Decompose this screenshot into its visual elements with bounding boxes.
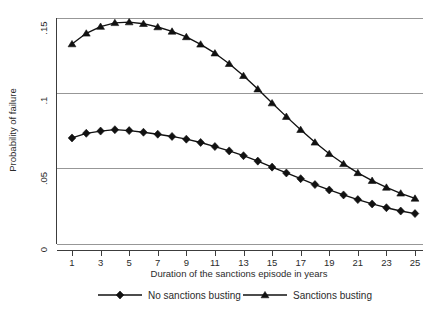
- series-line: [72, 22, 415, 198]
- x-tick-label: 25: [410, 257, 421, 268]
- x-tick-label: 11: [210, 257, 220, 268]
- y-tick-label: .05: [38, 172, 49, 185]
- x-tick-label: 9: [184, 257, 189, 268]
- series-1: [68, 126, 419, 218]
- x-tick-label: 21: [353, 257, 364, 268]
- data-point-marker: [82, 30, 90, 36]
- x-tick-label: 1: [69, 257, 74, 268]
- data-point-marker: [211, 143, 219, 151]
- data-point-marker: [311, 181, 319, 189]
- series-line: [72, 130, 415, 214]
- data-point-marker: [197, 41, 205, 47]
- data-point-marker: [368, 200, 376, 208]
- data-point-marker: [368, 177, 376, 183]
- data-point-marker: [254, 157, 262, 165]
- data-point-marker: [411, 210, 419, 218]
- data-point-marker: [154, 130, 162, 138]
- data-point-marker: [283, 169, 291, 177]
- data-point-marker: [82, 129, 90, 137]
- legend-label: Sanctions busting: [293, 290, 372, 301]
- legend-item-2[interactable]: Sanctions busting: [243, 290, 372, 301]
- data-point-marker: [168, 132, 176, 140]
- data-point-marker: [240, 152, 248, 160]
- data-point-marker: [354, 169, 362, 175]
- x-tick-label: 13: [238, 257, 249, 268]
- x-tick-group: [73, 251, 416, 256]
- data-point-marker: [354, 196, 362, 204]
- x-tick-label: 17: [295, 257, 306, 268]
- data-point-marker: [297, 175, 305, 183]
- series-2: [68, 18, 419, 201]
- y-axis-title: Probability of failure: [7, 88, 18, 171]
- data-point-marker: [211, 50, 219, 56]
- y-tick-label: .1: [38, 97, 49, 105]
- x-tick-label: 19: [324, 257, 335, 268]
- chart-canvas: 0.05.1.15 135791113151719212325 Duration…: [0, 0, 430, 316]
- gridlines-group: [57, 19, 423, 245]
- data-point-marker: [383, 204, 391, 212]
- data-point-marker: [97, 127, 105, 135]
- data-point-marker: [325, 186, 333, 194]
- data-point-marker: [197, 138, 205, 146]
- chart-figure: 0.05.1.15 135791113151719212325 Duration…: [0, 0, 430, 316]
- data-point-marker: [183, 135, 191, 143]
- x-axis-title: Duration of the sanctions episode in yea…: [151, 268, 328, 279]
- data-point-marker: [68, 134, 76, 142]
- data-point-marker: [225, 147, 233, 155]
- chart-legend: No sanctions bustingSanctions busting: [98, 290, 372, 301]
- x-tick-label: 15: [267, 257, 278, 268]
- legend-label: No sanctions busting: [148, 290, 241, 301]
- data-point-marker: [111, 126, 119, 134]
- x-tick-label: 5: [127, 257, 132, 268]
- y-tick-label: .15: [38, 22, 49, 35]
- series-group: [68, 18, 419, 217]
- data-point-marker: [340, 191, 348, 199]
- data-point-marker: [397, 207, 405, 215]
- data-point-marker: [268, 163, 276, 171]
- legend-item-1[interactable]: No sanctions busting: [98, 290, 241, 301]
- x-tick-label: 7: [155, 257, 160, 268]
- data-point-marker: [125, 127, 133, 135]
- legend-marker-diamond-icon: [116, 291, 124, 299]
- y-tick-label: 0: [38, 247, 49, 252]
- data-point-marker: [140, 128, 148, 136]
- y-tick-label-group: 0.05.1.15: [38, 22, 49, 253]
- x-tick-label-group: 135791113151719212325: [69, 257, 420, 268]
- x-tick-label: 23: [381, 257, 392, 268]
- data-point-marker: [383, 184, 391, 190]
- x-tick-label: 3: [98, 257, 103, 268]
